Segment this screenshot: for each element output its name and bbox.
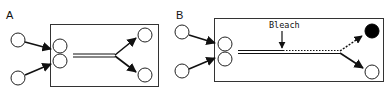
input-arrow-bottom bbox=[25, 64, 51, 75]
output-circle-bottom bbox=[365, 65, 379, 79]
panel-a-label: A bbox=[6, 9, 14, 21]
merge-circle-bottom bbox=[218, 52, 232, 66]
output-arrow-bottom bbox=[115, 56, 136, 72]
input-circle-top bbox=[175, 25, 189, 39]
input-arrow-top bbox=[189, 35, 215, 43]
output-circle-top-filled bbox=[365, 24, 379, 38]
merge-circle-bottom bbox=[53, 54, 67, 68]
panel-b-label: B bbox=[176, 9, 183, 21]
panel-b: B Bleach bbox=[175, 9, 384, 82]
channel-double-line bbox=[73, 54, 115, 57]
output-arrow-top bbox=[115, 38, 136, 55]
input-circle-top bbox=[11, 33, 25, 47]
input-arrow-bottom bbox=[189, 58, 215, 69]
output-circle-bottom bbox=[138, 68, 152, 82]
bleach-label: Bleach bbox=[269, 20, 300, 30]
merge-circle-top bbox=[218, 37, 232, 51]
diagram-canvas: A B Bleach bbox=[0, 0, 392, 91]
output-circle-top bbox=[138, 28, 152, 42]
output-arrow-bottom bbox=[340, 53, 363, 68]
output-arrow-top-dotted bbox=[340, 36, 362, 51]
input-circle-bottom bbox=[175, 64, 189, 78]
merge-circle-top bbox=[53, 39, 67, 53]
input-circle-bottom bbox=[11, 71, 25, 85]
panel-a: A bbox=[6, 9, 159, 87]
input-arrow-top bbox=[25, 42, 51, 49]
